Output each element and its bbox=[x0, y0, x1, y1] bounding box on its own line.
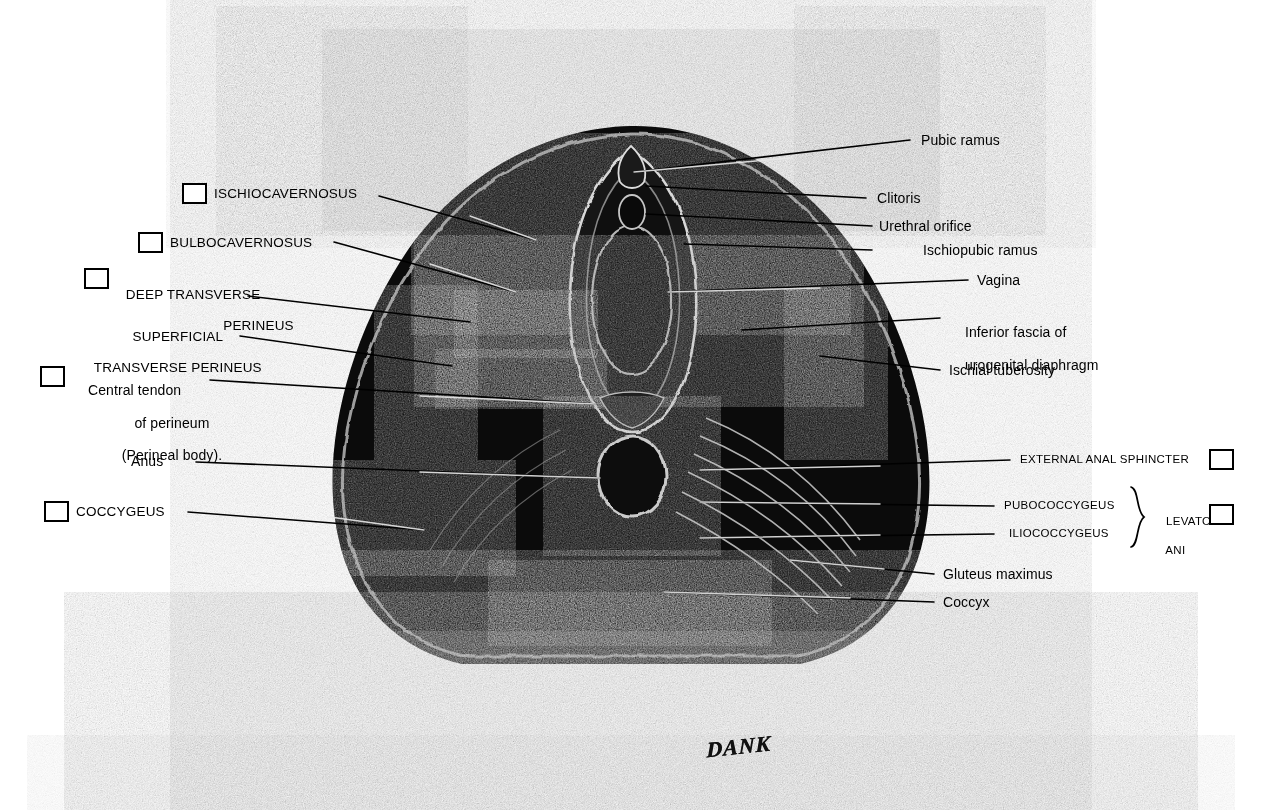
label-external-anal-sphincter: EXTERNAL ANAL SPHINCTER bbox=[1020, 453, 1189, 466]
label-coccyx: Coccyx bbox=[943, 594, 990, 610]
label-pubococcygeus: PUBOCOCCYGEUS bbox=[1004, 499, 1115, 512]
label-central-tendon-line2: of perineum bbox=[88, 415, 256, 431]
label-iliococcygeus: ILIOCOCCYGEUS bbox=[1009, 527, 1109, 540]
label-anus: Anus bbox=[131, 453, 163, 469]
label-central-tendon-line1: Central tendon bbox=[88, 382, 181, 398]
checkbox-bulbocavernosus[interactable] bbox=[138, 232, 163, 253]
anatomy-plate: ISCHIOCAVERNOSUS BULBOCAVERNOSUS DEEP TR… bbox=[0, 0, 1262, 810]
label-deep-transverse-perineus-line1: DEEP TRANSVERSE bbox=[126, 287, 261, 302]
checkbox-levator-ani[interactable] bbox=[1209, 504, 1234, 525]
label-bulbocavernosus: BULBOCAVERNOSUS bbox=[170, 235, 312, 251]
label-vagina: Vagina bbox=[977, 272, 1020, 288]
checkbox-central-tendon-of-perineum[interactable] bbox=[40, 366, 65, 387]
label-urethral-orifice: Urethral orifice bbox=[879, 218, 972, 234]
checkbox-ischiocavernosus[interactable] bbox=[182, 183, 207, 204]
label-ischial-tuberosity: Ischial tuberosity bbox=[949, 362, 1055, 378]
label-central-tendon-line3: (Perineal body). bbox=[88, 447, 256, 463]
label-levator-ani-line2: ANI bbox=[1165, 544, 1185, 556]
label-pubic-ramus: Pubic ramus bbox=[921, 132, 1000, 148]
checkbox-coccygeus[interactable] bbox=[44, 501, 69, 522]
urethral-orifice bbox=[619, 195, 645, 229]
vaginal-orifice bbox=[592, 226, 672, 374]
anus bbox=[598, 436, 666, 516]
label-coccygeus: COCCYGEUS bbox=[76, 504, 165, 520]
label-superficial-transverse-perineus-line1: SUPERFICIAL bbox=[133, 329, 224, 344]
label-gluteus-maximus: Gluteus maximus bbox=[943, 566, 1053, 582]
label-ischiopubic-ramus: Ischiopubic ramus bbox=[923, 242, 1038, 258]
label-ischiocavernosus: ISCHIOCAVERNOSUS bbox=[214, 186, 357, 202]
label-clitoris: Clitoris bbox=[877, 190, 921, 206]
label-inferior-fascia-line1: Inferior fascia of bbox=[965, 324, 1066, 340]
checkbox-external-anal-sphincter[interactable] bbox=[1209, 449, 1234, 470]
checkbox-deep-transverse-perineus[interactable] bbox=[84, 268, 109, 289]
